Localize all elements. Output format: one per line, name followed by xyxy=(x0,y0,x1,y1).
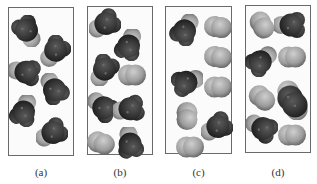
light-molecule-icon xyxy=(116,59,148,91)
panel-label-a: (a) xyxy=(21,166,61,178)
light-molecule-icon xyxy=(202,71,234,103)
dark-molecule-icon xyxy=(272,80,312,120)
light-molecule-icon xyxy=(276,119,308,151)
dark-molecule-icon xyxy=(36,117,68,149)
light-molecule-icon xyxy=(174,131,206,163)
light-molecule-icon xyxy=(85,127,117,159)
dark-molecule-icon xyxy=(39,35,71,67)
light-molecule-icon xyxy=(171,100,203,132)
dark-molecule-icon xyxy=(246,112,278,144)
panel-label-b: (b) xyxy=(100,166,140,178)
dark-molecule-icon xyxy=(274,9,306,41)
dark-molecule-icon xyxy=(38,73,70,105)
dark-molecule-icon xyxy=(245,45,277,77)
dark-molecule-icon xyxy=(171,66,203,98)
panel-label-c: (c) xyxy=(179,166,219,178)
dark-molecule-icon xyxy=(114,127,146,159)
dark-molecule-icon xyxy=(9,56,41,88)
dark-molecule-icon xyxy=(169,14,201,46)
dark-molecule-icon xyxy=(113,93,145,125)
light-molecule-icon xyxy=(202,41,234,73)
light-molecule-icon xyxy=(202,11,234,43)
panel-label-d: (d) xyxy=(258,166,298,178)
light-molecule-icon xyxy=(276,41,308,73)
